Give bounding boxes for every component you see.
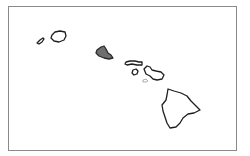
island-oahu[interactable] bbox=[96, 46, 113, 59]
island-molokai[interactable] bbox=[125, 61, 142, 65]
island-niihau[interactable] bbox=[37, 38, 44, 44]
island-maui[interactable] bbox=[144, 66, 164, 80]
island-hawaii[interactable] bbox=[162, 89, 200, 128]
island-kauai[interactable] bbox=[51, 31, 66, 42]
island-kahoolawe[interactable] bbox=[143, 79, 148, 82]
hawaii-map bbox=[0, 0, 250, 156]
island-lanai[interactable] bbox=[132, 69, 138, 75]
